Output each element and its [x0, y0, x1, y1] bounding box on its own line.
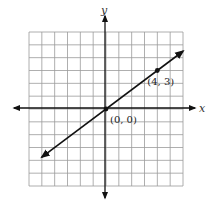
- data-line: [42, 51, 183, 157]
- origin-point: [104, 107, 109, 112]
- coordinate-plane: x y (0, 0) (4, 3): [0, 0, 214, 206]
- point-label: (4, 3): [147, 76, 174, 87]
- x-axis-label: x: [199, 102, 206, 115]
- point-4-3: [155, 68, 160, 73]
- origin-label: (0, 0): [110, 114, 137, 125]
- y-axis-label: y: [100, 4, 108, 17]
